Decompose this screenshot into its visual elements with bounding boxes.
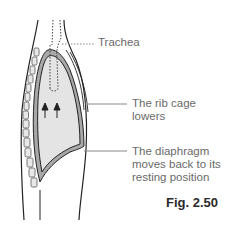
lung (38, 56, 80, 172)
trachea-label: Trachea (98, 36, 140, 49)
diaphragm-label-line2: moves back to its (132, 158, 221, 171)
diaphragm-label-line3: resting position (132, 171, 209, 184)
diaphragm-label-line1: The diaphragm (132, 145, 209, 158)
figure-caption: Fig. 2.50 (166, 195, 218, 210)
rib-cage-label-line1: The rib cage (132, 97, 196, 110)
rib-cage-label-line2: lowers (132, 110, 165, 123)
